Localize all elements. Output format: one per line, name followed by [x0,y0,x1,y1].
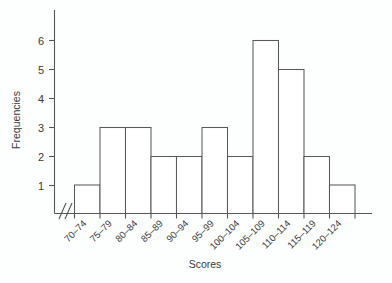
x-tick-label-85-89: 85–89 [138,218,164,244]
bar-105-109 [253,41,279,214]
histogram-chart: Frequencies 1 2 3 4 5 6 [0,0,392,283]
bar-120-124 [330,185,356,214]
bar-70-74 [75,185,101,214]
y-tick-label-4: 4 [38,93,44,105]
y-axis-ticks: 1 2 3 4 5 6 [38,35,55,192]
x-tick-label-90-94: 90–94 [164,218,190,244]
bar-100-104 [228,157,254,214]
y-tick-label-5: 5 [38,64,44,76]
x-axis-title: Scores [189,258,222,270]
x-axis-ticks [75,214,356,219]
bar-95-99 [202,128,228,214]
y-tick-label-1: 1 [38,180,44,192]
y-tick-label-2: 2 [38,151,44,163]
x-axis-category-labels: 70–74 75–79 80–84 85–89 90–94 95–99 100–… [62,218,343,252]
bar-85-89 [151,157,177,214]
y-tick-label-3: 3 [38,122,44,134]
x-tick-label-70-74: 70–74 [62,218,88,244]
x-tick-label-80-84: 80–84 [113,218,139,244]
bar-110-114 [279,70,305,214]
bar-75-79 [100,128,126,214]
x-tick-label-75-79: 75–79 [87,218,113,244]
y-axis-title: Frequencies [10,91,22,149]
bar-90-94 [177,157,203,214]
chart-canvas: Frequencies 1 2 3 4 5 6 [0,0,392,283]
axis-break-icon [59,203,72,219]
bar-series [75,41,356,214]
bar-80-84 [126,128,152,214]
y-tick-label-6: 6 [38,35,44,47]
bar-115-119 [304,157,330,214]
